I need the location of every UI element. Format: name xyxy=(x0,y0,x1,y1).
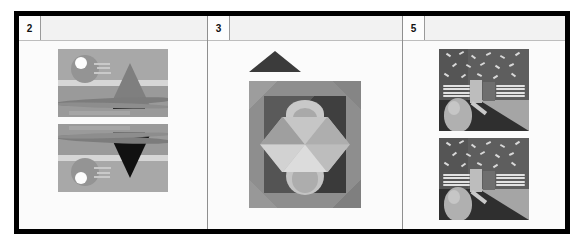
sun-ray-icon xyxy=(97,67,110,69)
artwork-music-note-egg-scene-duplicate[interactable] xyxy=(439,138,529,220)
artwork-seascape-sailboat[interactable] xyxy=(58,49,168,117)
foreground-strip xyxy=(69,111,130,115)
sun-circle xyxy=(75,57,87,69)
cell-body-3 xyxy=(208,41,402,229)
sun-ray-icon xyxy=(94,176,110,178)
staff-line xyxy=(443,174,470,176)
sun-circle xyxy=(75,172,87,184)
egg-highlight xyxy=(448,190,460,204)
artwork-seascape-sailboat-flipped[interactable] xyxy=(58,124,168,192)
artwork-geometric-mandala[interactable] xyxy=(249,81,361,208)
light-bar-shape xyxy=(470,80,483,103)
cell-header-blank-2[interactable] xyxy=(230,16,402,40)
sun-ray-icon xyxy=(97,172,110,174)
staff-line xyxy=(496,174,526,176)
grid-column-2: 3 xyxy=(208,16,403,229)
column-1-header-row: 2 xyxy=(19,16,207,41)
staff-line xyxy=(443,92,470,94)
staff-line xyxy=(443,85,470,87)
cell-index-3[interactable]: 3 xyxy=(208,16,230,40)
sun-ray-icon xyxy=(94,63,110,65)
egg-highlight xyxy=(448,101,460,115)
cell-header-blank-1[interactable] xyxy=(41,16,207,40)
column-2-header-row: 3 xyxy=(208,16,402,41)
cell-header-blank-3[interactable] xyxy=(425,16,565,40)
grid-column-1: 2 xyxy=(19,16,208,229)
staff-line xyxy=(496,92,526,94)
cell-body-2 xyxy=(19,41,207,229)
cell-body-5 xyxy=(403,41,565,229)
cell-index-5[interactable]: 5 xyxy=(403,16,425,40)
staff-line xyxy=(443,184,470,186)
staff-line xyxy=(496,184,526,186)
staff-line xyxy=(496,85,526,87)
staff-line xyxy=(496,181,526,183)
grid-column-3: 5 xyxy=(403,16,565,229)
staff-line xyxy=(496,95,526,97)
foreground-strip xyxy=(69,126,130,130)
column-3-header-row: 5 xyxy=(403,16,565,41)
table-sheet: 2 xyxy=(19,16,565,229)
staff-line xyxy=(443,181,470,183)
artwork-music-note-egg-scene[interactable] xyxy=(439,49,529,131)
dark-bar-shape xyxy=(483,82,495,102)
staff-line xyxy=(443,95,470,97)
dark-bar-shape xyxy=(483,171,495,191)
cell-index-2[interactable]: 2 xyxy=(19,16,41,40)
light-bar-shape xyxy=(470,169,483,192)
table-outer-frame: 2 xyxy=(14,11,570,234)
small-triangle-row xyxy=(249,51,361,72)
artwork-small-dark-triangle[interactable] xyxy=(249,51,301,72)
